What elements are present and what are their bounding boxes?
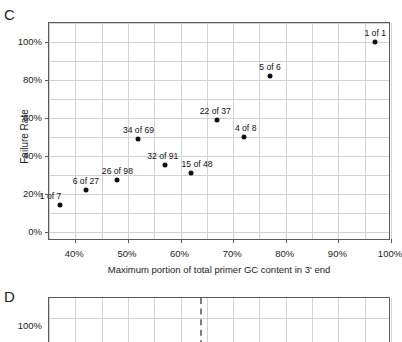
- data-point-marker: [189, 170, 194, 175]
- gridline-vertical: [233, 298, 234, 342]
- gridline-horizontal: [49, 213, 389, 214]
- data-point-label: 1 of 7: [40, 191, 62, 201]
- gridline-vertical: [49, 298, 50, 342]
- plot-area-d: [48, 297, 390, 342]
- gridline-vertical: [365, 23, 366, 239]
- panel-c-label: C: [4, 7, 15, 22]
- reference-line-d: [200, 298, 202, 342]
- gridline-horizontal: [49, 232, 389, 233]
- gridline-vertical: [338, 298, 339, 342]
- x-axis-tick-label: 100%: [378, 248, 402, 259]
- x-axis-tick: [286, 239, 287, 243]
- gridline-horizontal: [49, 175, 389, 176]
- gridline-vertical: [128, 298, 129, 342]
- y-axis-tick: [45, 156, 49, 157]
- gridline-vertical: [207, 23, 208, 239]
- gridline-horizontal: [49, 23, 389, 24]
- gridline-vertical: [154, 23, 155, 239]
- gridline-vertical: [49, 23, 50, 239]
- data-point-label: 26 of 98: [102, 166, 133, 176]
- panel-d: D 100%: [0, 285, 399, 342]
- gridline-horizontal: [49, 42, 389, 43]
- gridline-vertical: [75, 298, 76, 342]
- gridline-vertical: [312, 298, 313, 342]
- gridline-vertical: [259, 23, 260, 239]
- x-axis-tick: [181, 239, 182, 243]
- gridline-vertical: [338, 23, 339, 239]
- data-point-label: 5 of 6: [259, 62, 281, 72]
- data-point-label: 4 of 8: [235, 123, 257, 133]
- x-axis-tick-label: 80%: [275, 248, 294, 259]
- gridline-horizontal: [49, 137, 389, 138]
- x-axis-tick-label: 60%: [170, 248, 189, 259]
- panel-d-label: D: [4, 289, 15, 304]
- gridline-vertical: [207, 298, 208, 342]
- data-point-marker: [241, 134, 246, 139]
- x-axis-tick: [233, 239, 234, 243]
- gridline-vertical: [286, 298, 287, 342]
- y-axis-tick-label-d: 100%: [8, 320, 42, 331]
- gridline-vertical: [286, 23, 287, 239]
- scatter-plot-area-c: 1 of 76 of 2726 of 9834 of 6932 of 9115 …: [48, 22, 390, 240]
- gridline-horizontal: [49, 194, 389, 195]
- data-point-marker: [57, 202, 62, 207]
- data-point-label: 1 of 1: [364, 28, 386, 38]
- gridline-vertical: [312, 23, 313, 239]
- gridline-horizontal: [49, 318, 389, 319]
- gridline-horizontal: [49, 80, 389, 81]
- x-axis-tick-label: 50%: [117, 248, 136, 259]
- data-point-marker: [115, 178, 120, 183]
- data-point-marker: [267, 74, 272, 79]
- gridline-vertical: [102, 23, 103, 239]
- x-axis-tick-label: 40%: [65, 248, 84, 259]
- y-axis-tick: [45, 42, 49, 43]
- x-axis-tick-label: 70%: [223, 248, 242, 259]
- data-point-label: 32 of 91: [147, 151, 178, 161]
- gridline-vertical: [391, 23, 392, 239]
- x-axis-tick-label: 90%: [328, 248, 347, 259]
- x-axis-title-c: Maximum portion of total primer GC conte…: [48, 264, 390, 275]
- gridline-vertical: [181, 298, 182, 342]
- gridline-vertical: [259, 298, 260, 342]
- gridline-vertical: [75, 23, 76, 239]
- gridline-vertical: [154, 298, 155, 342]
- y-axis-tick: [45, 118, 49, 119]
- data-point-marker: [136, 136, 141, 141]
- data-point-marker: [162, 163, 167, 168]
- x-axis-tick: [128, 239, 129, 243]
- gridline-horizontal: [49, 156, 389, 157]
- gridline-vertical: [391, 298, 392, 342]
- y-axis-tick: [45, 232, 49, 233]
- gridline-vertical: [181, 23, 182, 239]
- gridline-horizontal: [49, 99, 389, 100]
- data-point-label: 15 of 48: [182, 159, 213, 169]
- x-axis-tick: [391, 239, 392, 243]
- y-axis-tick-label: 100%: [8, 35, 42, 46]
- y-axis-title-c: Failure Rate: [19, 82, 30, 192]
- data-point-label: 34 of 69: [123, 125, 154, 135]
- x-axis-tick: [75, 239, 76, 243]
- gridline-horizontal: [49, 61, 389, 62]
- data-point-marker: [373, 39, 378, 44]
- y-axis-tick: [45, 80, 49, 81]
- data-point-label: 6 of 27: [73, 176, 99, 186]
- y-axis-tick: [45, 194, 49, 195]
- panel-c: C 1 of 76 of 2726 of 9834 of 6932 of 911…: [0, 0, 399, 285]
- data-point-label: 22 of 37: [200, 106, 231, 116]
- gridline-vertical: [365, 298, 366, 342]
- gridline-vertical: [102, 298, 103, 342]
- x-axis-tick: [338, 239, 339, 243]
- data-point-marker: [215, 117, 220, 122]
- y-axis-tick-label: 0%: [8, 225, 42, 236]
- data-point-marker: [83, 187, 88, 192]
